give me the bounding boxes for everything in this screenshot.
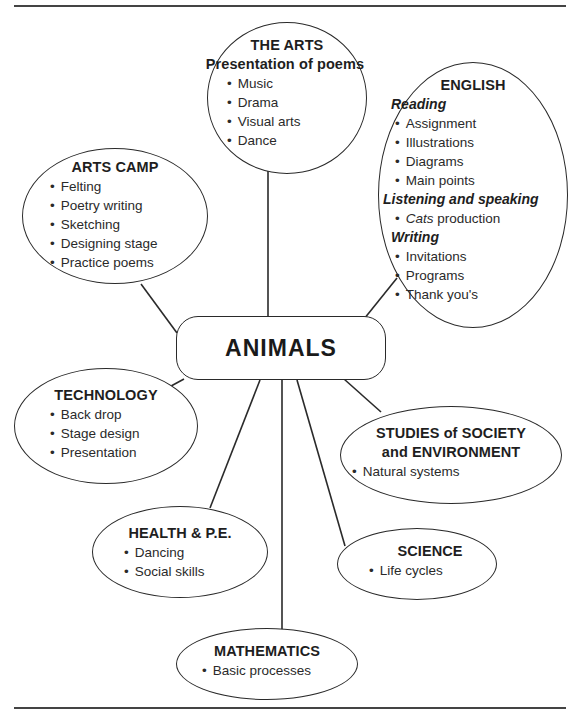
the-arts-content: THE ARTS Presentation of poems Music Dra… <box>207 36 367 150</box>
list-item: Drama <box>225 93 367 112</box>
science-content: SCIENCE Life cycles <box>337 542 497 580</box>
mathematics-title: MATHEMATICS <box>176 642 358 661</box>
list-item: Dance <box>225 131 367 150</box>
link-science <box>297 380 345 546</box>
list-item: Visual arts <box>225 112 367 131</box>
english-heading-writing: Writing <box>383 228 563 247</box>
english-heading-listening: Listening and speaking <box>383 190 563 209</box>
technology-title: TECHNOLOGY <box>14 386 198 405</box>
list-item: Thank you's <box>393 285 563 304</box>
sose-title-line2: and ENVIRONMENT <box>340 443 562 462</box>
list-item: Invitations <box>393 247 563 266</box>
health-pe-title: HEALTH & P.E. <box>92 524 268 543</box>
italic-title: Cats <box>406 211 434 226</box>
list-item: Sketching <box>48 215 208 234</box>
list-item: Natural systems <box>350 462 562 481</box>
list-item: Cats production <box>393 209 563 228</box>
arts-camp-content: ARTS CAMP Felting Poetry writing Sketchi… <box>22 158 208 272</box>
sose-content: STUDIES of SOCIETY and ENVIRONMENT Natur… <box>340 424 562 481</box>
list-item: Illustrations <box>393 133 563 152</box>
link-health-pe <box>210 380 260 508</box>
list-item: Music <box>225 74 367 93</box>
science-title: SCIENCE <box>337 542 497 561</box>
list-item: Diagrams <box>393 152 563 171</box>
link-arts-camp <box>141 284 177 333</box>
english-heading-reading: Reading <box>383 95 563 114</box>
list-item: Practice poems <box>48 253 208 272</box>
link-sose <box>344 379 381 412</box>
list-item: Basic processes <box>200 661 358 680</box>
list-item: Dancing <box>122 543 268 562</box>
list-item: Programs <box>393 266 563 285</box>
list-item: Main points <box>393 171 563 190</box>
the-arts-title: THE ARTS <box>207 36 367 55</box>
list-item: Social skills <box>122 562 268 581</box>
list-item: Life cycles <box>367 561 497 580</box>
the-arts-subtitle: Presentation of poems <box>203 55 367 74</box>
sose-title-line1: STUDIES of SOCIETY <box>340 424 562 443</box>
mathematics-content: MATHEMATICS Basic processes <box>176 642 358 680</box>
list-item: Back drop <box>48 405 198 424</box>
item-rest: production <box>434 211 501 226</box>
list-item: Designing stage <box>48 234 208 253</box>
english-title: ENGLISH <box>383 76 563 95</box>
center-topic-label: ANIMALS <box>225 335 337 362</box>
english-content: ENGLISH Reading Assignment Illustrations… <box>383 76 563 304</box>
list-item: Assignment <box>393 114 563 133</box>
center-topic: ANIMALS <box>176 316 386 380</box>
list-item: Presentation <box>48 443 198 462</box>
technology-content: TECHNOLOGY Back drop Stage design Presen… <box>14 386 198 462</box>
health-pe-content: HEALTH & P.E. Dancing Social skills <box>92 524 268 581</box>
list-item: Stage design <box>48 424 198 443</box>
list-item: Poetry writing <box>48 196 208 215</box>
arts-camp-title: ARTS CAMP <box>22 158 208 177</box>
list-item: Felting <box>48 177 208 196</box>
